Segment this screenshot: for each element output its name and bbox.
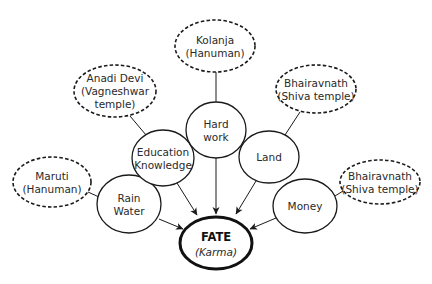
bhairavnath-top-label-line: (Shiva temple) — [277, 90, 354, 102]
link-maruti-to-rain-water — [88, 192, 99, 197]
maruti-label-line: (Hanuman) — [22, 183, 81, 195]
education-knowledge-label-line: Education — [137, 146, 189, 158]
bhairavnath-top-label-line: Bhairavnath — [284, 77, 348, 89]
link-anadi-devi-to-education-knowledge — [130, 116, 146, 135]
rain-water-label-line: Water — [113, 205, 145, 217]
link-bhairavnath-top-to-land — [285, 112, 300, 135]
node-bhairavnath-right: Bhairavnath(Shiva temple) — [340, 160, 420, 204]
fate-concept-diagram: Maruti(Hanuman)Anadi Devi(Vagneshwartemp… — [0, 0, 432, 284]
arrow-land-to-fate — [236, 181, 256, 214]
bhairavnath-right-label-line: (Shiva temple) — [341, 183, 418, 195]
maruti-label-line: Maruti — [35, 170, 69, 182]
fate-title: FATE — [201, 230, 231, 244]
node-land: Land — [239, 131, 299, 183]
money-label-line: Money — [288, 200, 323, 212]
node-kolanja: Kolanja(Hanuman) — [175, 20, 255, 72]
node-bhairavnath-top: Bhairavnath(Shiva temple) — [276, 65, 356, 113]
rain-water-label-line: Rain — [117, 192, 140, 204]
anadi-devi-label-line: temple) — [95, 98, 136, 110]
anadi-devi-label-line: Anadi Devi — [87, 72, 144, 84]
bhairavnath-right-label-line: Bhairavnath — [348, 170, 412, 182]
node-anadi-devi: Anadi Devi(Vagneshwartemple) — [74, 65, 156, 117]
node-hard-work: Hardwork — [186, 102, 246, 158]
kolanja-label-line: Kolanja — [196, 34, 234, 46]
education-knowledge-label-line: Knowledge — [134, 159, 192, 171]
arrow-money-to-fate — [250, 218, 276, 229]
node-money: Money — [273, 179, 337, 233]
arrow-rain-water-to-fate — [159, 219, 183, 229]
anadi-devi-label-line: (Vagneshwar — [81, 85, 150, 97]
hard-work-label-line: Hard — [203, 118, 228, 130]
hard-work-label-line: work — [203, 131, 229, 143]
factor-nodes: RainWaterEducationKnowledgeHardworkLandM… — [97, 102, 337, 233]
arrow-education-knowledge-to-fate — [177, 183, 197, 215]
kolanja-label-line: (Hanuman) — [185, 47, 244, 59]
fate-node: FATE (Karma) — [180, 217, 252, 269]
node-education-knowledge: EducationKnowledge — [132, 130, 194, 186]
fate-subtitle: (Karma) — [195, 246, 237, 258]
node-maruti: Maruti(Hanuman) — [13, 157, 91, 207]
land-label-line: Land — [256, 151, 282, 163]
